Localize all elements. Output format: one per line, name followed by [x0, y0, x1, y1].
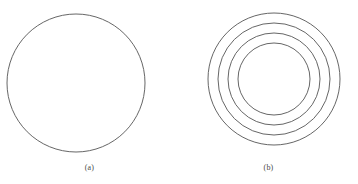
figure-panel-b: (b): [179, 0, 358, 184]
circle-b-3: [228, 33, 320, 125]
circle-a-1: [7, 14, 145, 152]
panel-b-caption: (b): [179, 163, 358, 173]
panel-a-caption: (a): [0, 163, 179, 173]
panel-a-drawing: [0, 0, 179, 184]
figure-root: (a) (b): [0, 0, 358, 184]
circle-b-2: [218, 23, 330, 135]
panel-b-drawing: [179, 0, 358, 184]
figure-panel-a: (a): [0, 0, 179, 184]
circle-b-4: [238, 43, 310, 115]
